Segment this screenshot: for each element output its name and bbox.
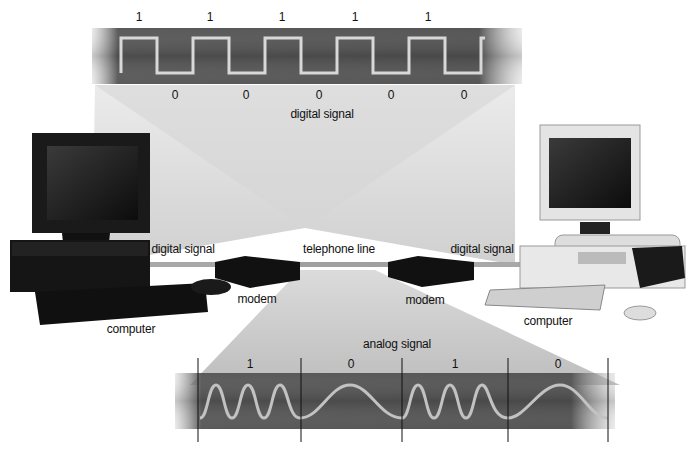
left-modem-label: modem bbox=[237, 292, 276, 306]
right-digital-signal-label: digital signal bbox=[450, 242, 513, 256]
digital-bit-0: 0 bbox=[316, 88, 323, 102]
right-computer-label: computer bbox=[524, 314, 572, 328]
analog-signal-caption: analog signal bbox=[363, 337, 431, 351]
digital-bit-0: 0 bbox=[243, 88, 250, 102]
digital-bit-1: 1 bbox=[352, 10, 359, 24]
digital-bit-1: 1 bbox=[136, 10, 143, 24]
digital-signal-band bbox=[92, 28, 522, 84]
digital-bit-0: 0 bbox=[388, 88, 395, 102]
digital-bit-1: 1 bbox=[279, 10, 286, 24]
telephone-line-label: telephone line bbox=[303, 242, 375, 256]
left-digital-signal-label: digital signal bbox=[151, 242, 214, 256]
digital-bit-1: 1 bbox=[207, 10, 214, 24]
digital-bit-0: 0 bbox=[461, 88, 468, 102]
digital-bit-0: 0 bbox=[172, 88, 179, 102]
left-computer-label: computer bbox=[107, 322, 155, 336]
right-modem-label: modem bbox=[405, 293, 444, 307]
analog-bit: 0 bbox=[348, 357, 355, 371]
analog-bit: 1 bbox=[247, 357, 254, 371]
digital-bit-1: 1 bbox=[425, 10, 432, 24]
modem-diagram: 1 1 1 1 1 0 0 0 0 0 digital signal digit… bbox=[0, 0, 694, 452]
diagram-graphics bbox=[0, 0, 694, 452]
analog-bit: 1 bbox=[452, 357, 459, 371]
analog-bit: 0 bbox=[555, 357, 562, 371]
digital-signal-caption: digital signal bbox=[290, 107, 353, 121]
